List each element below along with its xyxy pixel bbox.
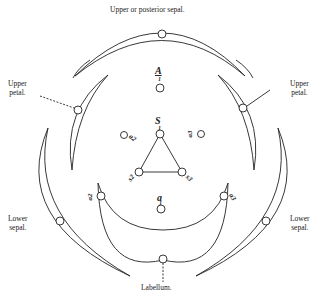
symbol-anther-top-sub: 1 [158,76,161,82]
symbol-stigma-sub: 1 [158,125,161,131]
labellum-shape [97,183,228,282]
label-upper-sepal: Upper or posterior sepal. [110,6,185,15]
diagram-svg [0,0,326,299]
lower-sepal-left-node [56,217,64,225]
symbol-lower-left: a2 [86,194,94,201]
labellum-left-node [97,192,105,200]
upper-petal-right-shape [218,60,270,170]
label-upper-petal-right: Upper petal. [290,80,309,97]
lower-sepal-right-node [262,217,270,225]
labellum-node [159,255,167,263]
upper-petal-right-node [239,104,247,112]
symbol-anther-bottom-sub: 1 [159,200,162,206]
lower-sepal-left-shape [39,128,130,276]
label-lower-sepal-left: Lower sepal. [8,215,28,232]
upper-sepal-node [158,30,166,38]
symbol-right-upper: a3 [186,131,194,138]
symbol-anther-top: A [155,65,162,76]
column-triangle [121,84,205,213]
label-lower-sepal-right: Lower sepal. [290,215,310,232]
floral-diagram: Upper or posterior sepal. Upper petal. U… [0,0,326,299]
upper-petal-left-shape [40,60,108,170]
anther-top-node [156,84,164,92]
lower-sepal-right-shape [196,128,287,276]
label-upper-petal-left: Upper petal. [8,80,27,97]
label-labellum: Labellum. [141,284,172,293]
anther-bottom-node [157,205,165,213]
upper-petal-left-node [74,106,82,114]
